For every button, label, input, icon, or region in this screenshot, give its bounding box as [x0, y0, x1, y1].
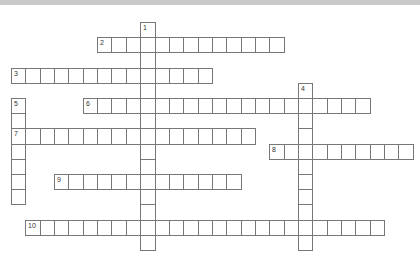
crossword-cell[interactable] [11, 159, 26, 175]
crossword-cell[interactable] [183, 98, 199, 114]
crossword-cell[interactable] [140, 83, 156, 99]
crossword-cell[interactable]: 9 [54, 174, 69, 190]
crossword-cell[interactable] [298, 113, 313, 129]
crossword-cell[interactable] [212, 98, 227, 114]
crossword-cell[interactable] [312, 98, 328, 114]
crossword-cell[interactable] [11, 174, 26, 190]
crossword-cell[interactable] [54, 220, 69, 236]
crossword-cell[interactable] [169, 37, 184, 53]
crossword-cell[interactable] [355, 144, 371, 160]
crossword-cell[interactable]: 1 [140, 22, 156, 38]
crossword-cell[interactable] [169, 220, 184, 236]
crossword-cell[interactable]: 10 [25, 220, 41, 236]
crossword-cell[interactable] [126, 68, 141, 84]
crossword-cell[interactable] [298, 128, 313, 145]
crossword-cell[interactable] [140, 204, 156, 221]
crossword-cell[interactable] [140, 68, 156, 84]
crossword-cell[interactable] [212, 174, 227, 190]
crossword-cell[interactable] [298, 220, 313, 236]
crossword-cell[interactable] [140, 159, 156, 175]
crossword-cell[interactable] [341, 220, 356, 236]
crossword-cell[interactable] [126, 128, 141, 145]
crossword-cell[interactable] [155, 98, 170, 114]
crossword-cell[interactable] [269, 98, 285, 114]
crossword-cell[interactable] [126, 37, 141, 53]
crossword-cell[interactable] [11, 144, 26, 160]
crossword-cell[interactable] [226, 174, 242, 190]
crossword-cell[interactable] [327, 220, 342, 236]
crossword-cell[interactable] [341, 144, 356, 160]
crossword-cell[interactable] [198, 37, 213, 53]
crossword-cell[interactable] [298, 144, 313, 160]
crossword-cell[interactable] [140, 113, 156, 129]
crossword-cell[interactable] [126, 98, 141, 114]
crossword-cell[interactable] [198, 220, 213, 236]
crossword-cell[interactable] [97, 220, 112, 236]
crossword-cell[interactable] [327, 98, 342, 114]
crossword-cell[interactable] [40, 128, 55, 145]
crossword-cell[interactable] [111, 98, 127, 114]
crossword-cell[interactable] [126, 174, 141, 190]
crossword-cell[interactable] [183, 174, 199, 190]
crossword-cell[interactable] [198, 68, 213, 84]
crossword-cell[interactable] [155, 220, 170, 236]
crossword-cell[interactable] [198, 98, 213, 114]
crossword-cell[interactable] [298, 204, 313, 221]
crossword-cell[interactable] [269, 220, 285, 236]
crossword-cell[interactable]: 7 [11, 128, 26, 145]
crossword-cell[interactable] [341, 98, 356, 114]
crossword-cell[interactable] [54, 68, 69, 84]
crossword-cell[interactable] [83, 174, 98, 190]
crossword-cell[interactable] [111, 37, 127, 53]
crossword-cell[interactable] [241, 98, 256, 114]
crossword-cell[interactable] [298, 189, 313, 205]
crossword-cell[interactable] [140, 174, 156, 190]
crossword-cell[interactable] [97, 128, 112, 145]
crossword-cell[interactable] [111, 174, 127, 190]
crossword-cell[interactable] [284, 220, 299, 236]
crossword-cell[interactable] [68, 128, 84, 145]
crossword-cell[interactable] [40, 220, 55, 236]
crossword-cell[interactable] [312, 144, 328, 160]
crossword-cell[interactable] [298, 235, 313, 251]
crossword-cell[interactable] [384, 144, 399, 160]
crossword-cell[interactable] [111, 220, 127, 236]
crossword-cell[interactable] [183, 37, 199, 53]
crossword-cell[interactable] [111, 128, 127, 145]
crossword-cell[interactable] [255, 220, 270, 236]
crossword-cell[interactable]: 4 [298, 83, 313, 99]
crossword-cell[interactable] [155, 174, 170, 190]
crossword-cell[interactable] [126, 220, 141, 236]
crossword-cell[interactable] [226, 37, 242, 53]
crossword-cell[interactable] [255, 37, 270, 53]
crossword-cell[interactable] [298, 98, 313, 114]
crossword-cell[interactable] [140, 189, 156, 205]
crossword-cell[interactable] [370, 144, 385, 160]
crossword-cell[interactable] [198, 128, 213, 145]
crossword-cell[interactable] [298, 159, 313, 175]
crossword-cell[interactable] [212, 128, 227, 145]
crossword-cell[interactable] [25, 68, 41, 84]
crossword-cell[interactable] [169, 128, 184, 145]
crossword-cell[interactable] [97, 98, 112, 114]
crossword-cell[interactable] [111, 68, 127, 84]
crossword-cell[interactable] [169, 98, 184, 114]
crossword-cell[interactable] [68, 68, 84, 84]
crossword-cell[interactable]: 5 [11, 98, 26, 114]
crossword-cell[interactable] [212, 220, 227, 236]
crossword-cell[interactable] [183, 220, 199, 236]
crossword-cell[interactable] [284, 144, 299, 160]
crossword-cell[interactable] [54, 128, 69, 145]
crossword-cell[interactable] [370, 220, 385, 236]
crossword-cell[interactable] [140, 37, 156, 53]
crossword-cell[interactable] [40, 68, 55, 84]
crossword-cell[interactable] [155, 68, 170, 84]
crossword-cell[interactable] [355, 220, 371, 236]
crossword-cell[interactable] [140, 220, 156, 236]
crossword-cell[interactable] [298, 174, 313, 190]
crossword-cell[interactable] [241, 220, 256, 236]
crossword-cell[interactable] [198, 174, 213, 190]
crossword-cell[interactable] [226, 220, 242, 236]
crossword-cell[interactable] [241, 37, 256, 53]
crossword-cell[interactable] [140, 52, 156, 69]
